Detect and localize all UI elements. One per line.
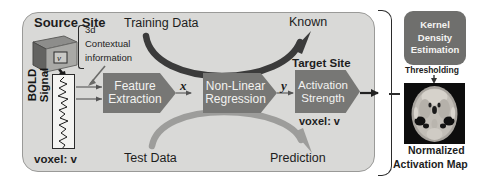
activation-map-line1: Normalized	[408, 145, 465, 156]
thresholding-label: Thresholding	[405, 66, 459, 75]
diagram-canvas: Source Site Training Data Known Target S…	[0, 0, 477, 185]
normalized-activation-map-image	[404, 83, 465, 144]
activation-map-line2: Activation Map	[393, 159, 468, 170]
